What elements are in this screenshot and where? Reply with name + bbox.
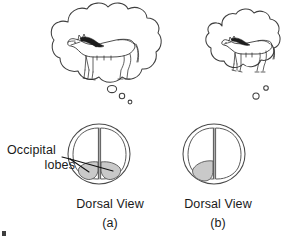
brain-dorsal-icon-a	[68, 124, 130, 184]
thought-bubble-icon	[206, 9, 280, 68]
brain-dorsal-icon-b	[183, 124, 245, 184]
thought-trail-bubble-small	[264, 86, 269, 91]
panel-b-caption: Dorsal View	[163, 197, 273, 211]
occipital-lobes-label: Occipital lobes	[7, 143, 75, 172]
thought-trail-bubble-medium	[119, 93, 124, 98]
thought-trail-bubble-large	[107, 85, 116, 92]
thought-trail-bubble-medium	[253, 93, 259, 99]
occipital-label-line-2: lobes	[7, 158, 75, 173]
figure-container: Occipital lobes Dorsal View (a) Dorsal V…	[0, 0, 300, 239]
thought-trail-bubble-small	[128, 100, 132, 104]
panel-b-letter: (b)	[163, 216, 273, 230]
corner-artifact-mark	[2, 231, 6, 236]
panel-a-caption: Dorsal View	[55, 197, 165, 211]
panel-a-letter: (a)	[55, 216, 165, 230]
occipital-label-line-1: Occipital	[7, 143, 75, 158]
